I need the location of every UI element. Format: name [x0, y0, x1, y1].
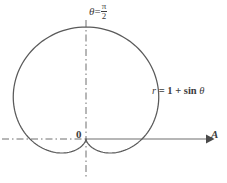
curve-equation-label: r = 1 + sin θ: [152, 86, 204, 97]
equation-theta-symbol: θ: [199, 85, 204, 96]
equation-rhs: 1 + sin: [167, 85, 196, 96]
theta-axis-label: θ=π2: [89, 3, 107, 23]
polar-cardioid-figure: θ=π2 r = 1 + sin θ 0 A: [0, 0, 227, 183]
equation-equals-sign: =: [159, 85, 165, 96]
origin-label: 0: [76, 129, 82, 140]
fraction-denominator-two: 2: [101, 12, 108, 21]
equation-lhs-r: r: [152, 85, 156, 96]
pi-over-two-fraction: π2: [101, 2, 108, 22]
polar-axis-label: A: [211, 129, 218, 140]
